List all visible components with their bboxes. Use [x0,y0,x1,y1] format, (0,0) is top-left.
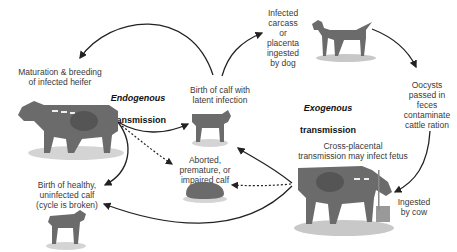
exogenous-title-line1: Exogenous [304,103,353,113]
exogenous-title-line2: transmission [300,125,356,135]
arrow-cow-to-aborted-dotted [232,184,291,186]
healthy-calf-image [44,208,90,250]
dog-image [308,18,380,62]
label-dog: Infected carcass or placenta ingested by… [258,8,308,68]
arrow-latent-to-dog [222,33,262,76]
label-healthy: Birth of healthy, uninfected calf (cycle… [32,180,102,210]
label-maturation: Maturation & breeding of infected heifer [8,67,112,87]
label-oocysts: Oocysts passed in feces contaminate catt… [398,80,456,130]
infected-heifer-image [14,95,126,161]
aborted-calf-image [180,178,230,204]
latent-calf-image [188,108,232,148]
infected-cow-image [292,158,402,238]
label-birth-latent: Birth of calf with latent infection [180,85,260,105]
exogenous-title: Exogenous transmission [298,92,358,136]
